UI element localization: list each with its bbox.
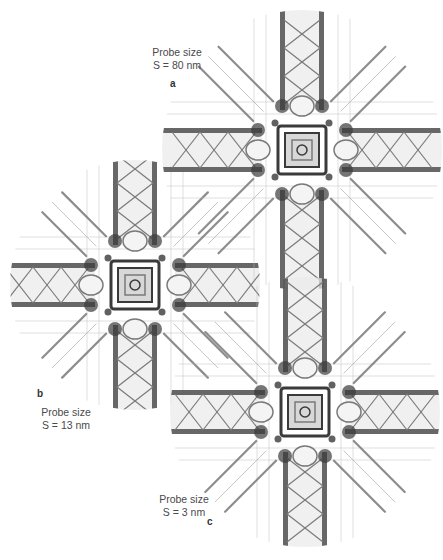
panel-letter-a: a — [170, 78, 176, 89]
probe-size-title-a: Probe size — [132, 46, 222, 59]
panel-letter-c: c — [207, 516, 213, 527]
probe-size-label-b: Probe size S = 13 nm — [26, 406, 106, 432]
probe-size-title-b: Probe size — [26, 406, 106, 419]
probe-size-label-a: Probe size S = 80 nm — [132, 46, 222, 72]
probe-size-value-a: S = 80 nm — [132, 59, 222, 72]
probe-size-title-c: Probe size — [145, 493, 223, 506]
diffraction-pattern-c — [0, 0, 443, 560]
probe-size-value-b: S = 13 nm — [26, 419, 106, 432]
panel-letter-b: b — [37, 388, 43, 399]
